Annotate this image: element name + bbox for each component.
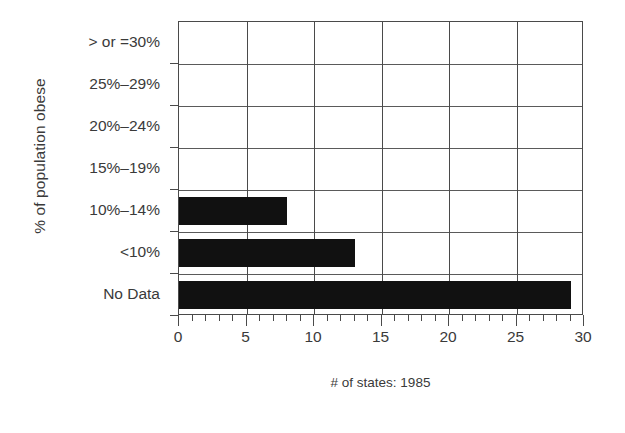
x-tick-label-10: 10 — [304, 328, 321, 346]
y-tick-label-10-14: 10%–14% — [89, 189, 160, 231]
y-tick-label-nodata: No Data — [103, 273, 160, 315]
bars-layer — [179, 22, 582, 314]
x-tick-major — [246, 315, 247, 326]
x-tick-major — [448, 315, 449, 326]
x-tick-minor — [570, 315, 571, 321]
x-tick-minor — [354, 315, 355, 321]
x-tick-minor — [502, 315, 503, 321]
bar-lt10 — [179, 239, 355, 267]
x-tick-major — [516, 315, 517, 326]
bar-row-10-14 — [179, 190, 582, 232]
y-tick-label-25-29: 25%–29% — [89, 63, 160, 105]
bar-row-25-29 — [179, 64, 582, 106]
x-tick-minor — [259, 315, 260, 321]
x-tick-major — [381, 315, 382, 326]
x-tick-minor — [435, 315, 436, 321]
y-tick-label-15-19: 15%–19% — [89, 147, 160, 189]
y-tick-label-ge30: > or =30% — [88, 21, 160, 63]
bar-row-lt10 — [179, 232, 582, 274]
x-tick-minor — [367, 315, 368, 321]
y-tick-label-lt10: <10% — [120, 231, 160, 273]
x-tick-minor — [340, 315, 341, 321]
x-tick-minor — [192, 315, 193, 321]
x-tick-minor — [394, 315, 395, 321]
x-tick-label-0: 0 — [174, 328, 183, 346]
x-tick-minor — [232, 315, 233, 321]
x-axis-tick-labels: 0 5 10 15 20 25 30 — [178, 328, 583, 352]
x-tick-label-25: 25 — [507, 328, 524, 346]
bar-row-15-19 — [179, 148, 582, 190]
x-tick-label-20: 20 — [439, 328, 456, 346]
x-tick-label-5: 5 — [241, 328, 250, 346]
x-tick-minor — [475, 315, 476, 321]
x-tick-minor — [273, 315, 274, 321]
x-tick-minor — [489, 315, 490, 321]
x-tick-label-15: 15 — [372, 328, 389, 346]
bar-row-20-24 — [179, 106, 582, 148]
x-tick-minor — [421, 315, 422, 321]
x-tick-major — [583, 315, 584, 326]
x-axis-ticks — [178, 315, 583, 327]
x-tick-major — [313, 315, 314, 326]
bar-10-14 — [179, 197, 287, 225]
bar-chart-figure: % of population obese > or =30% 25%–29% … — [0, 0, 625, 433]
x-tick-minor — [205, 315, 206, 321]
y-tick-label-20-24: 20%–24% — [89, 105, 160, 147]
x-tick-minor — [408, 315, 409, 321]
x-tick-minor — [219, 315, 220, 321]
x-tick-minor — [556, 315, 557, 321]
x-tick-minor — [529, 315, 530, 321]
x-tick-minor — [543, 315, 544, 321]
bar-row-ge30 — [179, 22, 582, 64]
x-tick-label-30: 30 — [574, 328, 591, 346]
x-tick-minor — [462, 315, 463, 321]
plot-area — [178, 21, 583, 315]
y-axis-tick-labels: > or =30% 25%–29% 20%–24% 15%–19% 10%–14… — [30, 21, 170, 315]
bar-row-nodata — [179, 274, 582, 316]
x-axis-title: # of states: 1985 — [178, 375, 583, 390]
x-tick-major — [178, 315, 179, 326]
x-tick-minor — [286, 315, 287, 321]
x-tick-minor — [300, 315, 301, 321]
bar-nodata — [179, 281, 571, 309]
x-tick-minor — [327, 315, 328, 321]
